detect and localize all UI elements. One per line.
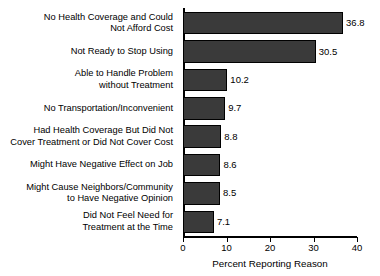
x-tick-label: 40 [352, 243, 363, 253]
bar-value-label: 36.8 [343, 18, 365, 28]
bar [183, 125, 221, 147]
category-label: Did Not Feel Need for Treatment at the T… [0, 208, 178, 236]
category-label-text: Not Ready to Stop Using [71, 46, 178, 58]
category-label: Had Health Coverage But Did Not Cover Tr… [0, 123, 178, 151]
category-label-text: Might Have Negative Effect on Job [30, 159, 178, 171]
bar-value-label: 30.5 [316, 47, 338, 57]
category-label-text: Might Cause Neighbors/Community to Have … [26, 182, 178, 205]
bar [183, 211, 214, 233]
x-axis-title: Percent Reporting Reason [183, 258, 357, 269]
bar-value-label: 8.8 [221, 132, 237, 142]
category-label-text: Had Health Coverage But Did Not Cover Tr… [10, 125, 178, 148]
category-label: No Health Coverage and Could Not Afford … [0, 9, 178, 37]
category-label-text: No Health Coverage and Could Not Afford … [44, 12, 178, 35]
bar-value-label: 9.7 [225, 104, 241, 114]
category-label: Might Cause Neighbors/Community to Have … [0, 179, 178, 207]
category-label-text: Did Not Feel Need for Treatment at the T… [82, 210, 178, 233]
bar-value-label: 10.2 [227, 75, 249, 85]
x-tick-label: 10 [221, 243, 232, 253]
x-tick-label: 20 [265, 243, 276, 253]
bar [183, 154, 220, 176]
bar-value-label: 8.5 [220, 189, 236, 199]
category-label-text: Able to Handle Problem without Treatment [75, 68, 178, 91]
bar [183, 182, 220, 204]
category-label: Able to Handle Problem without Treatment [0, 66, 178, 94]
category-label-text: No Transportation/Inconvenient [44, 103, 178, 115]
bar-chart: No Health Coverage and Could Not Afford … [0, 0, 380, 276]
category-label: No Transportation/Inconvenient [0, 94, 178, 122]
bar [183, 97, 225, 119]
bar [183, 40, 316, 62]
bar-value-label: 8.6 [220, 160, 236, 170]
category-label: Not Ready to Stop Using [0, 37, 178, 65]
x-tick-label: 30 [308, 243, 319, 253]
x-tick-label: 0 [180, 243, 185, 253]
category-label: Might Have Negative Effect on Job [0, 151, 178, 179]
bar [183, 69, 227, 91]
bar-value-label: 7.1 [214, 217, 230, 227]
bar [183, 12, 343, 34]
